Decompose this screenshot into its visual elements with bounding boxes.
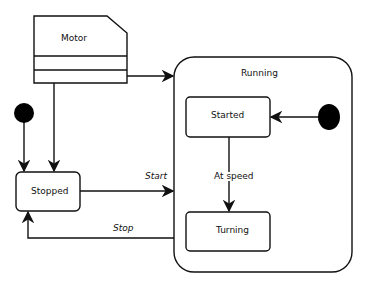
stop-transition-label: Stop <box>113 224 133 233</box>
stop-transition-arrow <box>28 212 174 238</box>
initial-pseudostate-inner <box>318 104 340 130</box>
stopped-label: Stopped <box>31 187 68 196</box>
initial-pseudostate-outer <box>14 103 34 123</box>
motor-label: Motor <box>61 34 87 43</box>
at-speed-transition-label: At speed <box>214 172 254 181</box>
running-label: Running <box>241 69 278 78</box>
turning-label: Turning <box>216 226 249 235</box>
started-label: Started <box>211 111 244 120</box>
start-transition-label: Start <box>145 172 167 181</box>
motor-class-box <box>34 16 127 83</box>
state-diagram <box>0 0 367 285</box>
